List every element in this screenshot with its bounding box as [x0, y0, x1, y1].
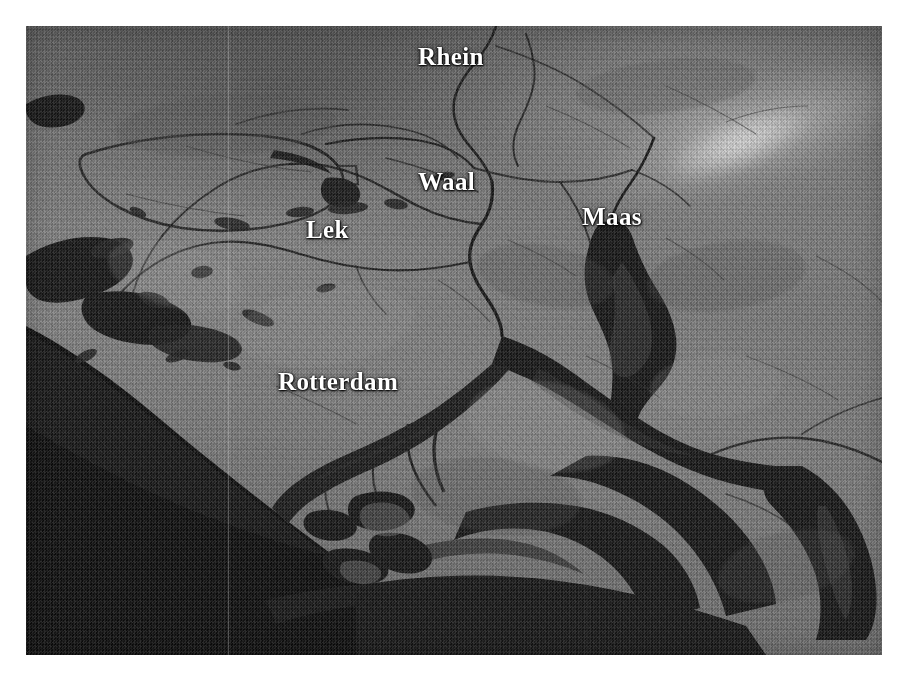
screenshot-root: Rhein Waal Lek Maas Rotterdam [0, 0, 905, 682]
map-label-rhein: Rhein [418, 44, 484, 69]
map-label-maas: Maas [582, 204, 642, 229]
scan-seam-line-left [228, 26, 229, 655]
satellite-image-plate: Rhein Waal Lek Maas Rotterdam [26, 26, 882, 655]
image-grain-layer-diagonal [26, 26, 882, 655]
map-label-waal: Waal [418, 169, 475, 194]
map-label-rotterdam: Rotterdam [278, 369, 398, 394]
map-label-lek: Lek [306, 217, 349, 242]
scan-seam-line-right [586, 26, 587, 655]
